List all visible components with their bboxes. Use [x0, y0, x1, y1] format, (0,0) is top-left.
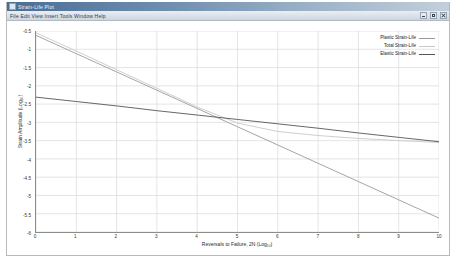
legend-item[interactable]: Total Strain-Life [384, 43, 435, 49]
window-menubar[interactable]: File Edit View Insert Tools Window Help [7, 11, 449, 21]
legend-label: Total Strain-Life [384, 43, 416, 49]
legend-label: Elastic Strain-Life [380, 51, 416, 57]
y-axis-ticklabel: -5.5 [23, 212, 31, 217]
maximize-button[interactable] [430, 12, 437, 19]
screenshot-root: Strain-Life Plot File Edit View Insert T… [0, 0, 450, 256]
legend-label: Plastic Strain-Life [380, 35, 416, 41]
legend-item[interactable]: Elastic Strain-Life [380, 51, 435, 57]
y-axis-ticklabel: -3 [27, 120, 31, 125]
y-axis-ticklabel: -2.5 [23, 102, 31, 107]
x-axis-ticklabel: 2 [115, 234, 118, 240]
close-button[interactable] [440, 12, 447, 19]
y-axis-ticklabel: -3.5 [23, 139, 31, 144]
y-axis-ticklabel: -4 [27, 157, 31, 162]
x-axis-ticklabel: 6 [276, 234, 279, 240]
menubar-labels: File Edit View Insert Tools Window Help [10, 13, 106, 19]
minimize-button[interactable] [420, 12, 427, 19]
legend-swatch [419, 38, 435, 39]
x-axis-ticklabel: 8 [357, 234, 360, 240]
plot-window: Strain-Life Plot File Edit View Insert T… [6, 2, 450, 256]
window-controls [420, 12, 447, 19]
y-axis-ticklabel: -4.5 [23, 175, 31, 180]
y-axis-ticklabel: -5 [27, 194, 31, 199]
x-axis-ticklabel: 5 [236, 234, 239, 240]
y-axis-ticklabel: -2 [27, 84, 31, 89]
x-axis-ticklabel: 7 [317, 234, 320, 240]
y-axis-ticklabel: -0.5 [23, 29, 31, 34]
window-title: Strain-Life Plot [18, 4, 449, 10]
y-axis-title: Strain Amplitude (Log₁₀) [17, 67, 24, 177]
x-axis-ticklabel: 9 [397, 234, 400, 240]
y-axis-ticklabel: -1.5 [23, 65, 31, 70]
plot-svg [36, 31, 439, 232]
x-axis-ticklabel: 3 [155, 234, 158, 240]
legend-swatch [419, 46, 435, 47]
y-axis-ticklabel: -6 [27, 231, 31, 236]
plot-area: Plastic Strain-LifeTotal Strain-LifeElas… [35, 31, 439, 233]
x-axis-ticklabel: 1 [74, 234, 77, 240]
x-axis-ticklabel: 4 [195, 234, 198, 240]
gridlines [36, 31, 439, 232]
legend-swatch [419, 54, 435, 55]
chart-container: -0.5-1-1.5-2-2.5-3-3.5-4-4.5-5-5.5-6 Pla… [7, 22, 449, 255]
application-icon [9, 3, 16, 10]
x-axis-ticklabel: 0 [34, 234, 37, 240]
legend-item[interactable]: Plastic Strain-Life [380, 35, 435, 41]
y-axis-ticklabel: -1 [27, 47, 31, 52]
chart-legend: Plastic Strain-LifeTotal Strain-LifeElas… [380, 35, 435, 57]
x-axis-ticklabel: 10 [436, 234, 441, 240]
x-axis-title: Reversals to Failure, 2N (Log₁₀) [35, 241, 439, 248]
window-titlebar[interactable]: Strain-Life Plot [7, 2, 449, 11]
